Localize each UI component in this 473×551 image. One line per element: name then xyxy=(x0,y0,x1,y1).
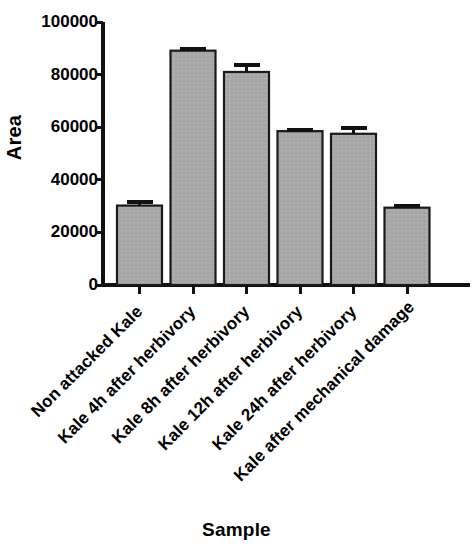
bar-chart-figure: Area 020000400006000080000100000 Non att… xyxy=(0,0,473,551)
x-axis-title: Sample xyxy=(0,519,473,541)
bar-series xyxy=(117,51,430,285)
plot-area xyxy=(0,0,473,551)
